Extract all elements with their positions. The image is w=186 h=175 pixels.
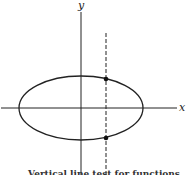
caption: Vertical line test for functions (28, 169, 180, 175)
diagram: y x Vertical line test for functions (0, 0, 186, 175)
y-axis-label: y (78, 0, 84, 11)
x-axis-label: x (179, 102, 185, 113)
intersection-point-lower (104, 136, 109, 141)
ellipse-plot (0, 0, 186, 175)
intersection-point-upper (104, 77, 109, 82)
